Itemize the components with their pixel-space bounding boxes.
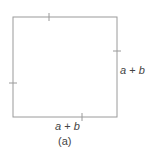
square-diagram: [0, 0, 154, 159]
plus-operator: +: [64, 120, 70, 132]
variable-a: a: [55, 120, 61, 132]
variable-b: b: [74, 120, 80, 132]
figure-caption: (a): [58, 136, 71, 147]
plus-operator: +: [129, 64, 135, 76]
side-length-label-right: a + b: [120, 65, 145, 76]
square-outline: [13, 17, 117, 117]
variable-a: a: [120, 64, 126, 76]
side-length-label-bottom: a + b: [55, 121, 80, 132]
variable-b: b: [139, 64, 145, 76]
